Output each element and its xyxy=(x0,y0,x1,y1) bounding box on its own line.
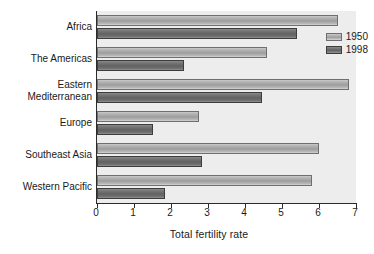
category-label-line1: Europe xyxy=(0,117,92,129)
x-tick-label-7: 7 xyxy=(352,207,358,218)
legend-label-1998: 1998 xyxy=(346,44,368,57)
category-label-5: Western Pacific xyxy=(0,181,92,193)
category-label-line1: Southeast Asia xyxy=(0,149,92,161)
category-label-1: The Americas xyxy=(0,53,92,65)
x-tick-label-6: 6 xyxy=(315,207,321,218)
bar-1998-3 xyxy=(97,124,153,135)
bar-1998-0 xyxy=(97,28,297,39)
bar-1950-5 xyxy=(97,175,312,186)
category-label-line1: Africa xyxy=(0,21,92,33)
bar-1950-3 xyxy=(97,111,199,122)
bar-1950-1 xyxy=(97,47,267,58)
legend-item-1950: 1950 xyxy=(326,31,368,44)
x-axis-title: Total fertility rate xyxy=(0,228,374,240)
plot-area xyxy=(96,11,356,204)
x-tick-label-3: 3 xyxy=(204,207,210,218)
category-label-3: Europe xyxy=(0,117,92,129)
x-tick-label-4: 4 xyxy=(241,207,247,218)
legend-swatch-1998-icon xyxy=(326,46,342,54)
chart-legend: 1950 1998 xyxy=(326,31,368,56)
bar-1950-0 xyxy=(97,15,338,26)
bar-1998-5 xyxy=(97,188,165,199)
x-tick-label-5: 5 xyxy=(278,207,284,218)
category-label-line1: Eastern xyxy=(0,79,92,91)
x-axis-title-text: Total fertility rate xyxy=(170,228,248,240)
bar-1950-2 xyxy=(97,79,349,90)
category-label-line1: The Americas xyxy=(0,53,92,65)
x-tick-label-2: 2 xyxy=(167,207,173,218)
category-label-2: EasternMediterranean xyxy=(0,79,92,102)
bar-1998-4 xyxy=(97,156,202,167)
legend-label-1950: 1950 xyxy=(346,31,368,44)
category-label-0: Africa xyxy=(0,21,92,33)
category-label-line1: Western Pacific xyxy=(0,181,92,193)
bar-1998-2 xyxy=(97,92,262,103)
bar-1998-1 xyxy=(97,60,184,71)
x-tick-label-1: 1 xyxy=(130,207,136,218)
legend-swatch-1950-icon xyxy=(326,33,342,41)
bar-1950-4 xyxy=(97,143,319,154)
category-label-line2: Mediterranean xyxy=(0,91,92,103)
category-label-4: Southeast Asia xyxy=(0,149,92,161)
x-tick-label-0: 0 xyxy=(93,207,99,218)
chart-figure: AfricaThe AmericasEasternMediterraneanEu… xyxy=(0,0,374,254)
legend-item-1998: 1998 xyxy=(326,44,368,57)
